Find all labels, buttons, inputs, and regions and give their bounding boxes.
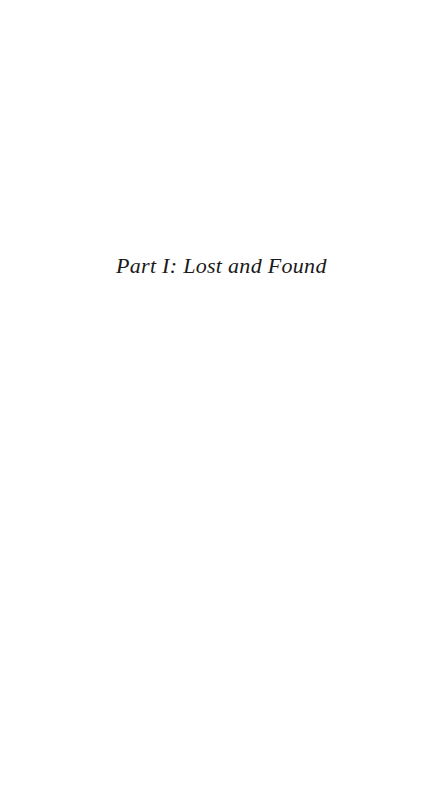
part-title-heading: Part I: Lost and Found [116,253,327,279]
book-part-title-page: Part I: Lost and Found [0,0,434,797]
